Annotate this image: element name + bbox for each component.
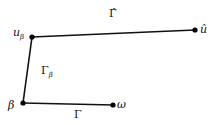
edge-gamma-beta	[23, 37, 32, 103]
label-omega: ω	[117, 99, 126, 110]
edge-gamma-hat	[32, 30, 195, 37]
label-u-hat: û	[200, 24, 207, 35]
label-u-beta: uβ	[13, 27, 24, 41]
label-gamma-hat: Γ̂	[109, 8, 117, 19]
node-beta	[20, 100, 25, 105]
edge-gamma	[23, 103, 113, 105]
label-gamma: Γ	[74, 109, 82, 120]
label-gamma-beta-sub: β	[49, 71, 53, 79]
label-gamma-beta-main: Γ	[41, 64, 49, 77]
label-beta: β	[8, 100, 14, 111]
node-u-hat	[192, 27, 197, 32]
path-diagram: uβ û β ω Γ̂ Γβ Γ	[0, 0, 217, 125]
label-u-beta-sub: β	[20, 33, 24, 41]
node-omega	[110, 102, 115, 107]
node-u-beta	[29, 34, 34, 39]
label-gamma-beta: Γβ	[41, 65, 53, 79]
